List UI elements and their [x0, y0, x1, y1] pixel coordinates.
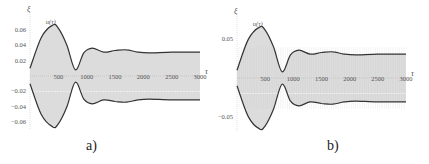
x-tick-label: 2000: [137, 73, 150, 80]
curve-annotation: u(τ): [253, 20, 263, 28]
curve-annotation: u(τ): [46, 18, 56, 26]
chart-panel-b: 50010001500200025003000−0.050.05ξτu(τ): [215, 0, 429, 140]
x-tick-label: 1000: [287, 75, 300, 82]
y-tick-label: 0.05: [222, 35, 233, 42]
y-tick-label: −0.06: [11, 118, 27, 125]
x-tick-label: 2000: [343, 75, 356, 82]
y-tick-label: −0.05: [218, 113, 233, 120]
y-tick-label: 0.04: [15, 41, 27, 48]
chart-b-plot: 50010001500200025003000−0.050.05ξτu(τ): [215, 0, 429, 140]
chart-a-plot: 50010001500200025003000−0.06−0.04−0.020.…: [0, 0, 215, 140]
caption-a: a): [86, 138, 97, 154]
x-tick-label: 2500: [371, 75, 384, 82]
x-tick-label: 500: [53, 73, 63, 80]
y-tick-label: 0.02: [15, 57, 26, 64]
x-tick-label: 1000: [80, 73, 93, 80]
y-tick-label: −0.04: [11, 103, 27, 110]
y-tick-label: −0.02: [11, 87, 26, 94]
caption-b: b): [327, 138, 339, 154]
x-axis-label: τ: [205, 67, 209, 76]
x-tick-label: 2500: [165, 73, 178, 80]
x-tick-label: 1500: [109, 73, 122, 80]
y-axis-label: ξ: [27, 5, 31, 14]
y-axis-label: ξ: [234, 7, 238, 16]
y-tick-label: 0.06: [15, 26, 27, 33]
chart-panel-a: 50010001500200025003000−0.06−0.04−0.020.…: [0, 0, 215, 140]
x-tick-label: 1500: [315, 75, 328, 82]
x-tick-label: 500: [260, 75, 270, 82]
x-axis-label: τ: [411, 69, 415, 78]
